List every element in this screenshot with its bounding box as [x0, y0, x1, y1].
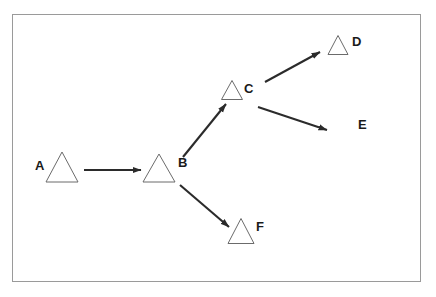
node-label-b: B [178, 155, 187, 170]
node-e[interactable]: E [358, 117, 367, 132]
node-label-a: A [35, 158, 45, 173]
diagram-canvas: ABCDEF [0, 0, 436, 297]
node-label-f: F [256, 219, 264, 234]
node-label-d: D [352, 34, 361, 49]
graph-diagram: ABCDEF [0, 0, 436, 297]
diagram-border [13, 15, 421, 282]
node-label-e: E [358, 117, 367, 132]
node-label-c: C [244, 81, 254, 96]
